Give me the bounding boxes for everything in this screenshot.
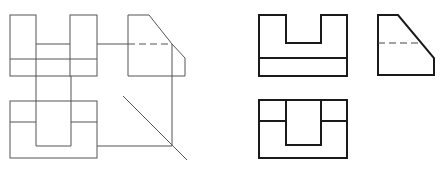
front-profile: [259, 15, 347, 76]
construction-side-view: [128, 15, 185, 76]
top-notch: [36, 101, 71, 146]
projection-lines: [36, 44, 187, 160]
miter-line: [123, 96, 187, 160]
top-outline: [10, 101, 97, 158]
orthographic-drawing: [0, 0, 442, 174]
final-side-view: [378, 15, 434, 75]
final-top-view: [259, 100, 347, 158]
side-profile: [378, 15, 434, 75]
final-drawing: [259, 15, 434, 158]
side-profile: [128, 15, 185, 76]
final-front-view: [259, 15, 347, 76]
right-upright: [70, 15, 97, 76]
left-upright: [10, 15, 36, 76]
construction-drawing: [10, 15, 187, 160]
construction-top-view: [10, 101, 97, 158]
top-notch: [286, 100, 321, 145]
top-outline: [259, 100, 347, 158]
construction-front-view: [10, 15, 97, 76]
